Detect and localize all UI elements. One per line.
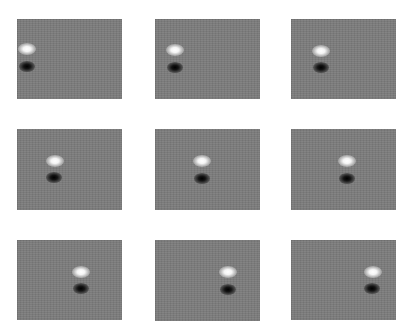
noise-texture [155,129,260,210]
dark-blob [364,283,380,294]
white-blob [18,43,36,55]
dark-blob [313,62,329,73]
dark-blob [19,61,35,72]
dark-blob [46,172,62,183]
white-blob [72,266,90,278]
white-blob [312,45,330,57]
white-blob [219,266,237,278]
image-panel-6 [291,129,396,210]
noise-texture [291,240,396,320]
image-panel-4 [17,129,122,210]
noise-texture [155,240,260,321]
image-panel-5 [155,129,260,210]
noise-texture [17,129,122,210]
noise-texture [291,19,396,99]
white-blob [46,155,64,167]
image-panel-8 [155,240,260,321]
dark-blob [167,62,183,73]
image-panel-7 [17,240,122,320]
noise-texture [17,240,122,320]
noise-texture [155,19,260,99]
dark-blob [194,173,210,184]
dark-blob [220,284,236,295]
noise-texture [291,129,396,210]
noise-texture [17,19,122,99]
image-panel-3 [291,19,396,99]
white-blob [338,155,356,167]
image-panel-1 [17,19,122,99]
dark-blob [73,283,89,294]
dark-blob [339,173,355,184]
white-blob [166,44,184,56]
image-panel-9 [291,240,396,320]
image-panel-2 [155,19,260,99]
white-blob [364,266,382,278]
white-blob [193,155,211,167]
